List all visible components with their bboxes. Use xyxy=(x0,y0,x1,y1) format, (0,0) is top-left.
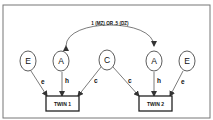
edge-label-h2: h xyxy=(157,77,161,84)
edge-label-c2: c xyxy=(128,77,132,84)
box-twin2-label: TWIN 2 xyxy=(147,101,164,107)
node-a1-label: A xyxy=(58,56,64,66)
edge-label-e1: e xyxy=(41,78,45,85)
edge-label-e2: e xyxy=(181,78,185,85)
edge-label-h1: h xyxy=(65,77,69,84)
correlation-label: 1 (MZ) OR .5 (DZ) xyxy=(91,21,129,26)
twin-model-diagram: 1 (MZ) OR .5 (DZ) e h c c h e E A C A E … xyxy=(0,0,213,120)
edge-label-c1: c xyxy=(94,77,98,84)
node-e2-label: E xyxy=(184,56,190,66)
box-twin1-label: TWIN 1 xyxy=(54,101,71,107)
node-e1-label: E xyxy=(25,56,31,66)
node-a2-label: A xyxy=(151,56,157,66)
node-c-label: C xyxy=(104,55,110,65)
